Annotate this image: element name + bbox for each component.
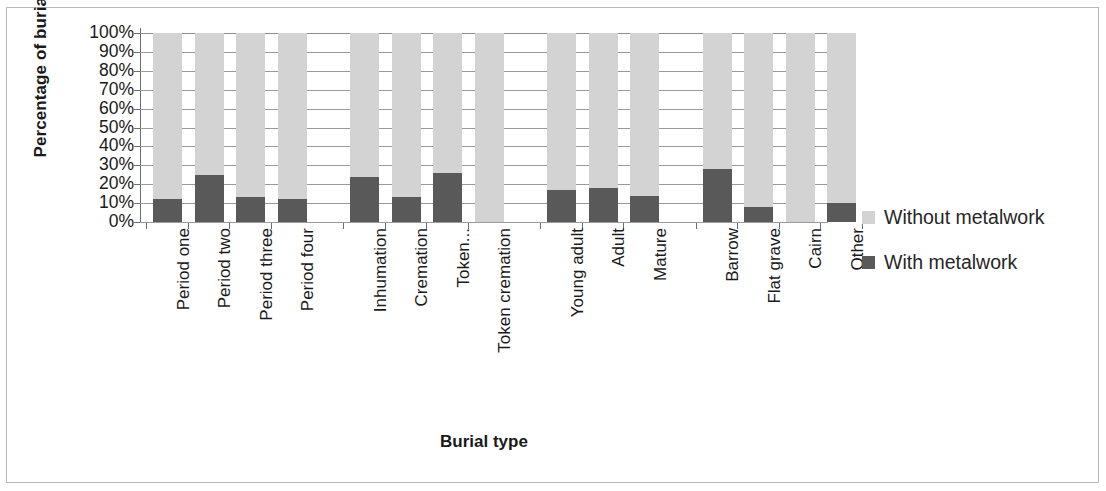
bar-segment-without-metalwork	[278, 33, 307, 199]
bar-period-two	[195, 33, 224, 222]
bar-segment-without-metalwork	[350, 33, 379, 177]
bar-segment-with-metalwork	[350, 177, 379, 222]
x-axis-label-adult: Adult	[610, 228, 627, 267]
bar-flat-grave	[744, 33, 773, 222]
bar-segment-with-metalwork	[195, 175, 224, 222]
y-axis-title: Percentage of burials	[31, 0, 51, 173]
bar-adult	[589, 33, 618, 222]
bar-segment-without-metalwork	[630, 33, 659, 196]
bar-segment-without-metalwork	[703, 33, 732, 169]
bar-segment-without-metalwork	[195, 33, 224, 175]
bar-token-cremation	[475, 33, 504, 222]
y-axis-tick-mark	[134, 128, 140, 129]
x-axis-label-barrow: Barrow	[724, 228, 741, 282]
y-axis-tick-mark	[134, 52, 140, 53]
y-axis-tick-label: 80%	[58, 62, 134, 80]
legend-label: With metalwork	[884, 251, 1017, 274]
y-axis-tick-label: 30%	[58, 156, 134, 174]
y-axis-tick-label: 0%	[58, 213, 134, 231]
x-axis-label-mature: Mature	[652, 228, 669, 281]
bar-period-one	[153, 33, 182, 222]
x-axis-label-flat-grave: Flat grave	[766, 228, 783, 304]
plot-area	[140, 33, 828, 222]
y-axis-tick-mark	[134, 222, 140, 223]
bar-segment-without-metalwork	[827, 33, 856, 203]
y-axis-tick-mark	[134, 33, 140, 34]
y-axis-tick-label: 40%	[58, 137, 134, 155]
bar-segment-without-metalwork	[236, 33, 265, 197]
x-axis-label-token-cremation: Token cremation	[496, 228, 513, 353]
gridline	[140, 222, 828, 223]
bar-token	[433, 33, 462, 222]
legend-label: Without metalwork	[884, 206, 1044, 229]
x-axis-label-period-four: Period four	[299, 228, 316, 311]
bar-cremation	[392, 33, 421, 222]
legend-item: With metalwork	[862, 251, 1044, 274]
bar-segment-with-metalwork	[827, 203, 856, 222]
legend-swatch-icon	[862, 256, 875, 269]
bar-segment-without-metalwork	[547, 33, 576, 190]
x-axis-label-cairn: Cairn	[807, 228, 824, 269]
y-axis-tick-mark	[134, 109, 140, 110]
legend-item: Without metalwork	[862, 206, 1044, 229]
bar-segment-without-metalwork	[589, 33, 618, 188]
x-axis-label-inhumation: Inhumation	[372, 228, 389, 312]
bar-mature	[630, 33, 659, 222]
x-axis-label-young-adult: Young adult	[569, 228, 586, 317]
chart-figure: Percentage of burials 100%90%80%70%60%50…	[0, 0, 1106, 491]
y-axis-tick-label: 70%	[58, 81, 134, 99]
y-axis-tick-mark	[134, 165, 140, 166]
y-axis-line	[140, 28, 141, 222]
bar-segment-with-metalwork	[278, 199, 307, 222]
bar-segment-with-metalwork	[703, 169, 732, 222]
x-axis-title: Burial type	[140, 432, 828, 452]
bar-segment-with-metalwork	[153, 199, 182, 222]
x-axis-label-period-two: Period two	[216, 228, 233, 308]
y-axis-tick-label: 20%	[58, 175, 134, 193]
bar-segment-with-metalwork	[744, 207, 773, 222]
bar-barrow	[703, 33, 732, 222]
y-axis-tick-mark	[134, 203, 140, 204]
y-axis-tick-mark	[134, 184, 140, 185]
x-axis-label-period-three: Period three	[258, 228, 275, 321]
y-axis-tick-label: 10%	[58, 194, 134, 212]
bar-segment-with-metalwork	[589, 188, 618, 222]
bar-segment-without-metalwork	[433, 33, 462, 173]
y-axis-tick-label: 100%	[58, 24, 134, 42]
y-axis-tick-mark	[134, 90, 140, 91]
y-axis-tick-labels: 100%90%80%70%60%50%40%30%20%10%0%	[58, 25, 134, 230]
bar-young-adult	[547, 33, 576, 222]
bar-segment-with-metalwork	[630, 196, 659, 222]
bar-segment-with-metalwork	[433, 173, 462, 222]
chart-legend: Without metalworkWith metalwork	[862, 206, 1044, 296]
x-axis-label-period-one: Period one	[175, 228, 192, 310]
bar-period-three	[236, 33, 265, 222]
y-axis-tick-label: 60%	[58, 100, 134, 118]
bar-segment-without-metalwork	[786, 33, 815, 222]
bar-segment-with-metalwork	[392, 197, 421, 222]
bar-segment-without-metalwork	[392, 33, 421, 197]
bar-segment-without-metalwork	[744, 33, 773, 207]
bar-cairn	[786, 33, 815, 222]
bar-inhumation	[350, 33, 379, 222]
legend-swatch-icon	[862, 211, 875, 224]
bar-other	[827, 33, 856, 222]
x-axis-category-labels: Period onePeriod twoPeriod threePeriod f…	[140, 228, 828, 418]
x-axis-label-token: Token...	[455, 228, 472, 288]
y-axis-tick-label: 50%	[58, 119, 134, 137]
bar-period-four	[278, 33, 307, 222]
y-axis-tick-mark	[134, 71, 140, 72]
x-axis-label-cremation: Cremation	[413, 228, 430, 306]
bar-segment-without-metalwork	[475, 33, 504, 222]
bar-segment-without-metalwork	[153, 33, 182, 199]
y-axis-tick-mark	[134, 146, 140, 147]
bar-segment-with-metalwork	[547, 190, 576, 222]
bar-segment-with-metalwork	[236, 197, 265, 222]
y-axis-tick-label: 90%	[58, 43, 134, 61]
